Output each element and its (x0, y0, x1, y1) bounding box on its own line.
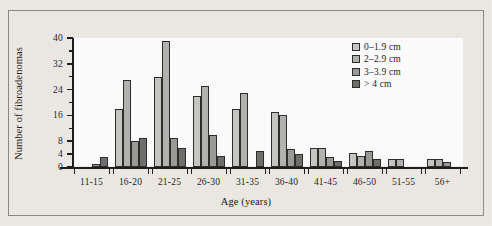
x-axis-tick (386, 168, 387, 174)
bar-group (232, 38, 265, 167)
y-axis-tick-label: 8 (0, 136, 63, 146)
bar[interactable] (154, 77, 162, 167)
x-axis-tick (269, 168, 270, 174)
bar[interactable] (256, 151, 264, 167)
y-axis-tick-label: 32 (0, 59, 63, 69)
y-axis-tick (67, 166, 73, 168)
bar[interactable] (396, 159, 404, 167)
x-axis-tick (148, 168, 149, 174)
bar-group (115, 38, 148, 167)
bar[interactable] (310, 148, 318, 167)
legend-item-label: > 4 cm (364, 79, 392, 89)
legend-item-label: 3–3.9 cm (364, 67, 401, 77)
bar[interactable] (162, 41, 170, 167)
y-axis-tick-label: 0 (0, 162, 63, 172)
bar[interactable] (193, 96, 201, 167)
bar[interactable] (435, 159, 443, 167)
bar-group (271, 38, 304, 167)
y-axis-tick (67, 115, 73, 117)
x-axis-tick (347, 168, 348, 174)
bar[interactable] (373, 159, 381, 167)
legend-item[interactable]: > 4 cm (352, 79, 401, 89)
x-axis-category-label: 16-20 (119, 177, 142, 187)
y-axis-tick (67, 140, 73, 142)
bar[interactable] (170, 138, 178, 167)
y-axis-minor-tick (69, 50, 73, 52)
bar[interactable] (427, 159, 435, 167)
bar[interactable] (178, 148, 186, 167)
y-axis-minor-tick (69, 128, 73, 130)
x-axis-tick (343, 168, 344, 174)
x-axis-category-label: 56+ (435, 177, 450, 187)
x-axis-category-label: 21-25 (158, 177, 181, 187)
bar[interactable] (217, 156, 225, 167)
legend-item[interactable]: 3–3.9 cm (352, 67, 401, 77)
x-axis-tick (425, 168, 426, 174)
bar[interactable] (287, 149, 295, 167)
x-axis-tick (226, 168, 227, 174)
bar-group (310, 38, 343, 167)
bar[interactable] (240, 93, 248, 167)
x-axis-tick (421, 168, 422, 174)
y-axis-tick-label: 40 (0, 33, 63, 43)
x-axis-category-label: 41-45 (314, 177, 337, 187)
bar[interactable] (271, 112, 279, 167)
x-axis-tick (109, 168, 110, 174)
x-axis-category-label: 26-30 (197, 177, 220, 187)
bar-group (154, 38, 187, 167)
bar[interactable] (349, 153, 357, 168)
x-axis-tick (382, 168, 383, 174)
x-axis-category-label: 31-35 (236, 177, 259, 187)
y-axis-tick-label: 4 (0, 149, 63, 159)
x-axis-tick (113, 168, 114, 174)
bar[interactable] (279, 115, 287, 167)
bar[interactable] (318, 148, 326, 167)
bar-group (76, 38, 109, 167)
bar[interactable] (295, 154, 303, 167)
bar-group (193, 38, 226, 167)
y-axis-tick-label: 24 (0, 85, 63, 95)
bar[interactable] (388, 159, 396, 167)
bar[interactable] (100, 157, 108, 167)
y-axis-title-label: Number of fibroadenomas (14, 46, 25, 159)
bar-group (427, 38, 460, 167)
bar[interactable] (326, 157, 334, 167)
legend-item-label: 2–2.9 cm (364, 54, 401, 64)
x-axis-tick (187, 168, 188, 174)
y-axis-tick (67, 89, 73, 91)
legend-item[interactable]: 0–1.9 cm (352, 42, 401, 52)
x-axis-category-label: 11-15 (80, 177, 103, 187)
figure-root: 04816243240 Number of fibroadenomas 11-1… (0, 0, 492, 226)
x-axis-tick (74, 168, 75, 174)
legend-item[interactable]: 2–2.9 cm (352, 54, 401, 64)
x-axis-category-label: 36-40 (275, 177, 298, 187)
bars-layer (73, 38, 463, 167)
x-axis-title-label: Age (years) (221, 196, 271, 207)
y-axis-minor-tick (69, 76, 73, 78)
x-axis-tick (304, 168, 305, 174)
x-axis-tick (460, 168, 461, 174)
bar[interactable] (201, 86, 209, 167)
x-axis-title: Age (years) (0, 196, 492, 207)
y-axis-tick (67, 153, 73, 155)
chart-legend: 0–1.9 cm2–2.9 cm3–3.9 cm> 4 cm (352, 42, 401, 89)
legend-swatch-icon (352, 68, 360, 76)
x-axis-category-label: 46-50 (353, 177, 376, 187)
bar[interactable] (139, 138, 147, 167)
bar[interactable] (232, 109, 240, 167)
bar[interactable] (123, 80, 131, 167)
bar[interactable] (131, 141, 139, 167)
bar[interactable] (209, 135, 217, 167)
x-axis-category-label: 51-55 (392, 177, 415, 187)
x-axis-tick (265, 168, 266, 174)
x-axis-tick (230, 168, 231, 174)
bar[interactable] (357, 156, 365, 167)
y-axis-title: Number of fibroadenomas (12, 38, 26, 168)
x-axis-line (60, 167, 468, 169)
x-axis-tick (308, 168, 309, 174)
legend-swatch-icon (352, 55, 360, 63)
bar[interactable] (115, 109, 123, 167)
x-axis-tick (191, 168, 192, 174)
y-axis-tick (67, 37, 73, 39)
bar[interactable] (365, 151, 373, 167)
